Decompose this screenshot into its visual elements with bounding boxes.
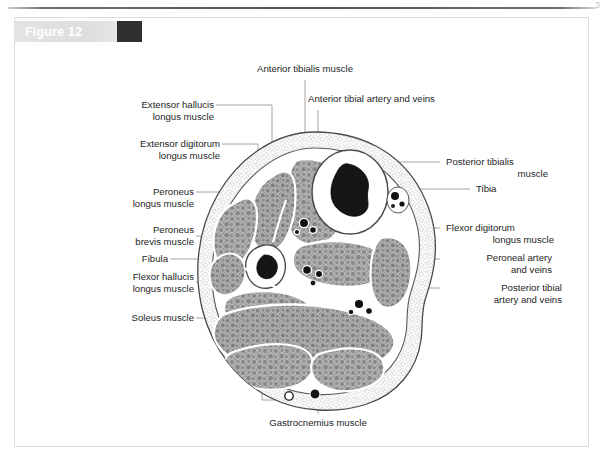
page-top-rule (8, 7, 596, 9)
flexor-digitorum-longus-region (370, 237, 411, 308)
label-line-2: longus muscle (446, 234, 554, 246)
figure-label: Figure 12 (14, 25, 82, 39)
peroneus-brevis-region (210, 254, 246, 296)
label-peroneal-artery-and-veins: Peroneal artery and veins (446, 252, 552, 277)
page-canvas: 3 Figure 12 (0, 0, 604, 464)
label-line-1: Soleus muscle (56, 312, 194, 324)
page-corner-mark: 3 (595, 1, 602, 10)
label-extensor-digitorum-longus-muscle: Extensor digitorum longus muscle (56, 138, 220, 163)
label-line-2: longus muscle (56, 111, 214, 123)
label-line-2: muscle (446, 168, 548, 180)
figure-color-swatch (117, 21, 142, 42)
label-fibula: Fibula (56, 253, 168, 265)
label-line-1: Flexor hallucis (56, 271, 194, 283)
label-line-1: Posterior tibial (446, 282, 562, 294)
label-anterior-tibialis-muscle: Anterior tibialis muscle (237, 63, 373, 75)
label-posterior-tibial-artery-and-veins: Posterior tibial artery and veins (446, 282, 586, 307)
label-line-1: Tibia (476, 183, 496, 195)
gastrocnemius-medial-head (224, 344, 313, 390)
label-peroneus-longus-muscle: Peroneus longus muscle (56, 186, 194, 211)
label-line-1: Fibula (56, 253, 168, 265)
lateral-vessel-group (387, 187, 409, 213)
label-extensor-hallucis-longus-muscle: Extensor hallucis longus muscle (56, 99, 214, 124)
label-line-1: Posterior tibialis (446, 156, 586, 168)
label-line-1: Peroneus (56, 224, 194, 236)
label-flexor-digitorum-longus-muscle: Flexor digitorum longus muscle (446, 222, 586, 247)
label-anterior-tibial-artery-and-veins: Anterior tibial artery and veins (308, 93, 435, 105)
label-line-1: Extensor hallucis (56, 99, 214, 111)
label-tibia: Tibia (476, 183, 496, 195)
label-flexor-hallucis-longus-muscle: Flexor hallucis longus muscle (56, 271, 194, 296)
label-line-2: and veins (446, 264, 552, 276)
label-posterior-tibialis-muscle: Posterior tibialis muscle (446, 156, 586, 181)
label-line-2: brevis muscle (56, 236, 194, 248)
label-line-2: longus muscle (56, 150, 220, 162)
label-line-1: Peroneal artery (446, 252, 552, 264)
label-peroneus-brevis-muscle: Peroneus brevis muscle (56, 224, 194, 249)
label-soleus-muscle: Soleus muscle (56, 312, 194, 324)
label-line-2: longus muscle (56, 283, 194, 295)
leg-cross-section-illustration (185, 128, 445, 413)
label-line-2: longus muscle (56, 198, 194, 210)
label-line-1: Flexor digitorum (446, 222, 586, 234)
gastrocnemius-lateral-head (311, 348, 384, 391)
label-line-1: Extensor digitorum (56, 138, 220, 150)
label-line-2: artery and veins (446, 294, 562, 306)
label-gastrocnemius-muscle: Gastrocnemius muscle (248, 417, 388, 429)
fibula-marrow-cavity (257, 255, 278, 279)
label-line-1: Peroneus (56, 186, 194, 198)
